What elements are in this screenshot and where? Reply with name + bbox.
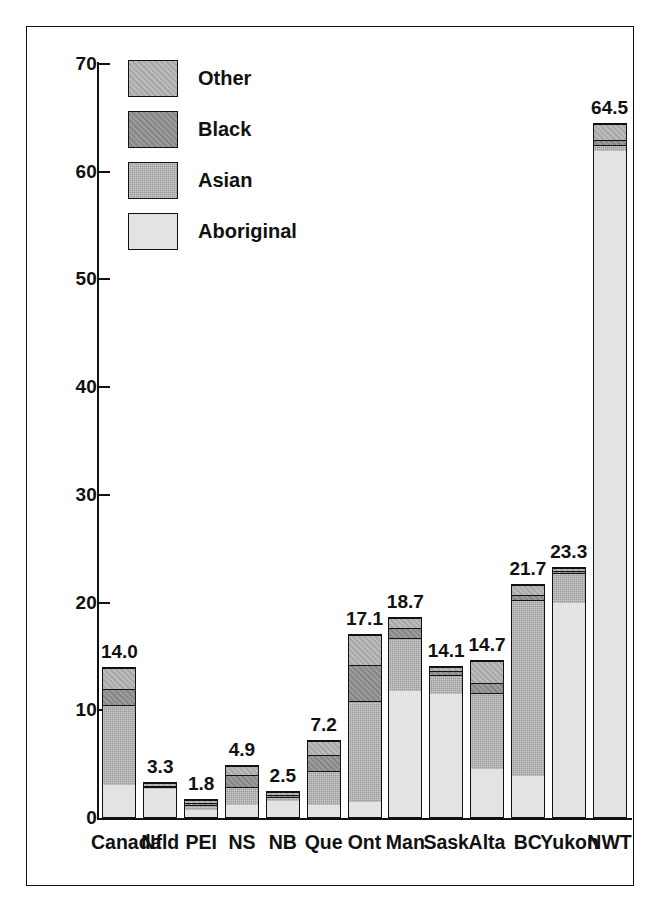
y-tick-70 (99, 63, 110, 65)
bar-pei[interactable] (184, 799, 218, 818)
y-tick-50 (99, 278, 110, 280)
bar-que[interactable] (307, 740, 341, 818)
legend-item-black[interactable]: Black (128, 107, 348, 151)
bar-segment-asian (471, 693, 503, 770)
x-axis-label-nwt: NWT (581, 833, 638, 853)
x-axis-line (97, 818, 632, 820)
bar-value-label: 17.1 (338, 609, 391, 628)
bar-segment-asian (226, 787, 258, 805)
bar-segment-aboriginal (267, 801, 299, 817)
bar-yukon[interactable] (552, 567, 586, 818)
legend-label: Aboriginal (198, 220, 297, 243)
bar-nwt[interactable] (593, 123, 627, 818)
bar-segment-aboriginal (512, 776, 544, 817)
bar-value-label: 14.0 (93, 642, 146, 661)
bar-segment-aboriginal (471, 769, 503, 817)
bar-segment-aboriginal (185, 810, 217, 817)
bar-alta[interactable] (470, 660, 504, 818)
bar-value-label: 23.3 (542, 542, 595, 561)
y-axis-tick-label: 40 (63, 377, 97, 396)
bar-segment-asian (430, 675, 462, 694)
legend-swatch-icon (128, 111, 178, 148)
bar-segment-aboriginal (430, 694, 462, 817)
y-tick-40 (99, 386, 110, 388)
y-axis-tick-label: 10 (63, 700, 97, 719)
chart-legend: OtherBlackAsianAboriginal (128, 56, 348, 260)
y-axis-tick-label: 60 (63, 162, 97, 181)
bar-nfld[interactable] (143, 782, 177, 818)
bar-segment-other (389, 618, 421, 629)
bar-segment-aboriginal (553, 603, 585, 817)
bar-segment-black (308, 755, 340, 771)
bar-segment-aboriginal (594, 151, 626, 817)
bar-man[interactable] (388, 617, 422, 818)
bar-segment-other (471, 661, 503, 683)
bar-ns[interactable] (225, 765, 259, 818)
bar-segment-aboriginal (103, 785, 135, 817)
bar-segment-other (308, 741, 340, 755)
bar-segment-aboriginal (349, 802, 381, 817)
legend-swatch-icon (128, 213, 178, 250)
bar-nb[interactable] (266, 791, 300, 818)
bar-segment-black (471, 683, 503, 693)
bar-value-label: 4.9 (216, 740, 269, 759)
bar-value-label: 14.7 (461, 635, 514, 654)
y-axis-tick-label: 0 (63, 808, 97, 827)
bar-sask[interactable] (429, 666, 463, 818)
bar-segment-black (349, 665, 381, 701)
bar-segment-aboriginal (144, 789, 176, 817)
plot-area: 706050403020100 OtherBlackAsianAborigina… (0, 0, 662, 911)
y-axis-tick-label: 70 (63, 54, 97, 73)
bar-value-label: 7.2 (297, 715, 350, 734)
chart-figure: 706050403020100 OtherBlackAsianAborigina… (0, 0, 662, 911)
y-axis-tick-label: 50 (63, 269, 97, 288)
bar-bc[interactable] (511, 584, 545, 818)
legend-label: Asian (198, 169, 252, 192)
bar-segment-aboriginal (226, 805, 258, 817)
y-axis-tick-label: 30 (63, 485, 97, 504)
legend-item-aboriginal[interactable]: Aboriginal (128, 209, 348, 253)
bar-value-label: 64.5 (583, 98, 636, 117)
bar-segment-other (103, 668, 135, 689)
bar-segment-other (594, 124, 626, 140)
y-tick-60 (99, 171, 110, 173)
bar-value-label: 18.7 (379, 592, 432, 611)
legend-label: Other (198, 67, 251, 90)
legend-label: Black (198, 118, 251, 141)
y-axis-line (97, 62, 99, 820)
bar-segment-other (349, 635, 381, 665)
bar-segment-asian (349, 701, 381, 802)
y-axis-tick-label: 20 (63, 593, 97, 612)
bar-segment-asian (103, 705, 135, 785)
legend-swatch-icon (128, 60, 178, 97)
bar-segment-aboriginal (389, 691, 421, 817)
bar-ont[interactable] (348, 634, 382, 818)
y-tick-20 (99, 602, 110, 604)
bar-segment-asian (512, 600, 544, 776)
legend-item-other[interactable]: Other (128, 56, 348, 100)
bar-value-label: 1.8 (175, 774, 228, 793)
legend-item-asian[interactable]: Asian (128, 158, 348, 202)
bar-segment-black (389, 628, 421, 638)
bar-canada[interactable] (102, 667, 136, 818)
bar-segment-other (226, 766, 258, 774)
bar-segment-black (103, 689, 135, 705)
bar-value-label: 2.5 (256, 766, 309, 785)
bar-segment-asian (553, 573, 585, 603)
bar-segment-black (226, 775, 258, 787)
bar-value-label: 21.7 (501, 559, 554, 578)
y-tick-30 (99, 494, 110, 496)
bar-segment-aboriginal (308, 805, 340, 817)
bar-segment-other (512, 585, 544, 595)
legend-swatch-icon (128, 162, 178, 199)
bar-segment-asian (389, 638, 421, 691)
bar-segment-asian (308, 771, 340, 806)
